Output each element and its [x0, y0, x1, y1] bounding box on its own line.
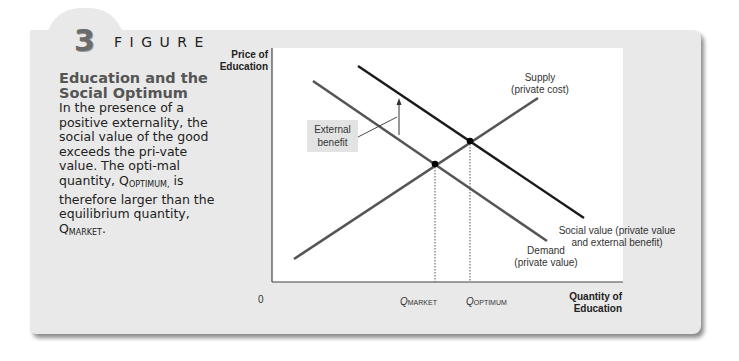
- q-market-tick-label: QMARKET: [400, 296, 437, 307]
- q-optimum-tick-label: QOPTIMUM: [466, 296, 507, 307]
- external-benefit-label: Externalbenefit: [307, 120, 358, 152]
- optimum-equilibrium-point: [467, 138, 474, 145]
- market-equilibrium-point: [432, 161, 439, 168]
- demand-label: Demand (private value): [510, 245, 582, 269]
- q-optimum-q: Q: [466, 296, 474, 307]
- x-axis-label-1: Quantity of: [560, 291, 622, 303]
- q-market-q: Q: [400, 296, 408, 307]
- origin-label: 0: [258, 294, 264, 306]
- demand-label-2: (private value): [510, 257, 582, 269]
- q-market-sub: MARKET: [408, 299, 437, 306]
- demand-curve: [313, 81, 547, 241]
- q-optimum-sub: OPTIMUM: [474, 299, 507, 306]
- supply-label-1: Supply: [500, 72, 580, 84]
- y-axis-label-1: Price of: [210, 49, 268, 61]
- y-axis-label: Price of Education: [210, 49, 268, 73]
- ext-line-2: benefit: [314, 136, 351, 149]
- supply-label-2: (private cost): [500, 84, 580, 96]
- chart-svg: [0, 0, 739, 361]
- social-label-1: Social value (private value: [552, 225, 682, 237]
- x-axis-label: Quantity of Education: [560, 291, 622, 315]
- arrowhead-icon: [397, 98, 402, 105]
- y-axis-label-2: Education: [210, 61, 268, 73]
- x-axis-label-2: Education: [560, 303, 622, 315]
- supply-label: Supply (private cost): [500, 72, 580, 96]
- demand-label-1: Demand: [510, 245, 582, 257]
- ext-line-1: External: [314, 123, 351, 136]
